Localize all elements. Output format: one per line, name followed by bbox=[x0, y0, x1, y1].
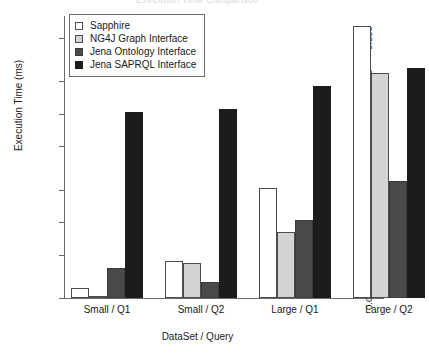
bar bbox=[183, 263, 201, 298]
bar bbox=[201, 282, 219, 298]
legend-item: Jena SAPRQL Interface bbox=[75, 58, 196, 71]
legend-label: Jena Ontology Interface bbox=[90, 46, 196, 57]
legend-swatch-icon bbox=[75, 61, 83, 69]
x-axis-tick-label: Small / Q1 bbox=[59, 304, 155, 315]
bar bbox=[219, 109, 237, 298]
y-axis-tick bbox=[59, 222, 64, 223]
x-axis-line bbox=[64, 298, 384, 299]
y-axis-tick bbox=[59, 146, 64, 147]
bar bbox=[407, 68, 425, 298]
legend-swatch-icon bbox=[75, 48, 83, 56]
bar bbox=[353, 26, 371, 298]
bar bbox=[371, 73, 389, 298]
y-axis-line bbox=[64, 16, 65, 298]
chart-legend: SapphireNG4J Graph InterfaceJena Ontolog… bbox=[69, 14, 205, 77]
legend-swatch-icon bbox=[75, 22, 83, 30]
legend-swatch-icon bbox=[75, 35, 83, 43]
bar bbox=[277, 232, 295, 298]
bar bbox=[125, 112, 143, 298]
y-axis-title: Execution Time (ms) bbox=[13, 36, 24, 176]
x-axis-tick-label: Large / Q1 bbox=[247, 304, 343, 315]
y-axis-tick bbox=[59, 81, 64, 82]
x-axis-tick-label: Small / Q2 bbox=[153, 304, 249, 315]
y-axis-tick bbox=[59, 298, 64, 299]
y-axis-tick bbox=[59, 114, 64, 115]
bar bbox=[389, 181, 407, 298]
x-axis-title: DataSet / Query bbox=[0, 331, 395, 342]
legend-label: Jena SAPRQL Interface bbox=[90, 59, 196, 70]
bar bbox=[295, 220, 313, 298]
x-axis-tick-label: Large / Q2 bbox=[341, 304, 429, 315]
legend-label: NG4J Graph Interface bbox=[90, 33, 188, 44]
bar bbox=[165, 261, 183, 298]
bar bbox=[71, 288, 89, 299]
bar bbox=[107, 268, 125, 298]
y-axis-tick bbox=[59, 255, 64, 256]
legend-item: Jena Ontology Interface bbox=[75, 45, 196, 58]
bar bbox=[313, 86, 331, 298]
legend-item: Sapphire bbox=[75, 19, 196, 32]
bar bbox=[259, 188, 277, 298]
legend-label: Sapphire bbox=[90, 20, 130, 31]
y-axis-tick bbox=[59, 190, 64, 191]
bar bbox=[89, 296, 107, 298]
legend-item: NG4J Graph Interface bbox=[75, 32, 196, 45]
chart-title: Execution Time Comparison bbox=[0, 0, 395, 5]
y-axis-tick bbox=[59, 38, 64, 39]
